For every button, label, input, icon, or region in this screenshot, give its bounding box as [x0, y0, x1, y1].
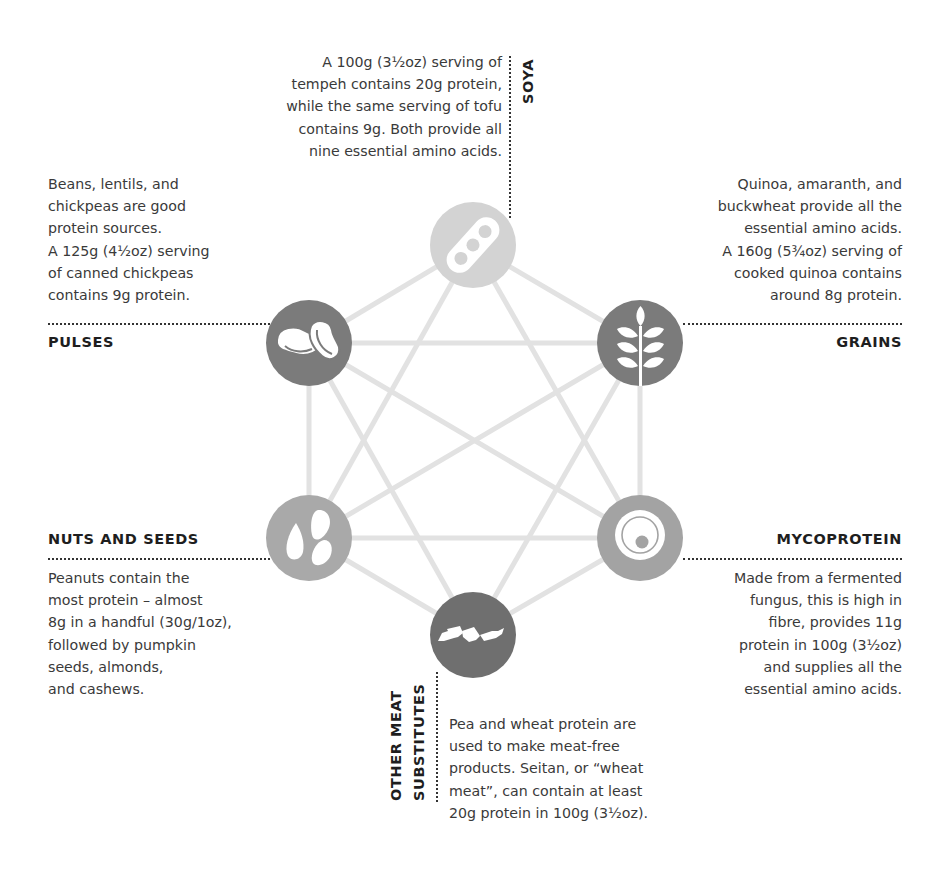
pulses-line: protein sources.	[48, 217, 288, 239]
connector-lines	[309, 245, 640, 635]
pulses-leader-line	[48, 323, 270, 325]
pulses-line: of canned chickpeas	[48, 262, 288, 284]
grains-leader-line	[683, 323, 902, 325]
grains-line: Quinoa, amaranth, and	[660, 173, 902, 195]
mycoprotein-line: and supplies all the	[660, 656, 902, 678]
nuts-and-seeds-line: seeds, almonds,	[48, 656, 288, 678]
soya-node	[430, 202, 516, 288]
other-meat-substitutes-node	[430, 592, 516, 678]
mycoprotein-line: Made from a fermented	[660, 567, 902, 589]
mycoprotein-line: essential amino acids.	[660, 678, 902, 700]
other-meat-substitutes-line: meat”, can contain at least	[449, 780, 739, 802]
pulses-line: A 125g (4½oz) serving	[48, 240, 288, 262]
mycoprotein-heading: MYCOPROTEIN	[700, 531, 902, 547]
other-meat-substitutes-leader-line	[436, 672, 438, 802]
fungus-cell-icon	[615, 510, 665, 560]
grains-heading: GRAINS	[700, 334, 902, 350]
soya-line: while the same serving of tofu	[230, 95, 502, 117]
soya-heading: SOYA	[520, 59, 536, 104]
pulses-line: chickpeas are good	[48, 195, 288, 217]
nuts-and-seeds-line: Peanuts contain the	[48, 567, 288, 589]
nuts-and-seeds-heading: NUTS AND SEEDS	[48, 531, 199, 547]
grains-node	[597, 300, 683, 386]
pulses-node	[266, 300, 352, 386]
mycoprotein-description: Made from a fermented fungus, this is hi…	[660, 567, 902, 700]
nuts-and-seeds-leader-line	[48, 558, 270, 560]
mycoprotein-line: fibre, provides 11g	[660, 611, 902, 633]
soya-line: contains 9g. Both provide all	[230, 118, 502, 140]
other-meat-substitutes-heading-line1: OTHER MEAT	[388, 690, 404, 801]
mycoprotein-line: fungus, this is high in	[660, 589, 902, 611]
soya-line: nine essential amino acids.	[230, 140, 502, 162]
grains-line: cooked quinoa contains	[660, 262, 902, 284]
nuts-and-seeds-line: 8g in a handful (30g/1oz),	[48, 611, 288, 633]
other-meat-substitutes-line: used to make meat-free	[449, 735, 739, 757]
nuts-and-seeds-line: and cashews.	[48, 678, 288, 700]
other-meat-substitutes-heading-line2: SUBSTITUTES	[411, 683, 427, 801]
mycoprotein-leader-line	[683, 558, 902, 560]
nuts-and-seeds-line: followed by pumpkin	[48, 634, 288, 656]
grains-line: A 160g (5¾oz) serving of	[660, 240, 902, 262]
grains-line: buckwheat provide all the	[660, 195, 902, 217]
other-meat-substitutes-line: Pea and wheat protein are	[449, 713, 739, 735]
mycoprotein-line: protein in 100g (3½oz)	[660, 634, 902, 656]
grains-line: essential amino acids.	[660, 217, 902, 239]
other-meat-substitutes-line: 20g protein in 100g (3½oz).	[449, 802, 739, 824]
pulses-line: contains 9g protein.	[48, 284, 288, 306]
nuts-and-seeds-description: Peanuts contain the most protein – almos…	[48, 567, 288, 700]
grains-line: around 8g protein.	[660, 284, 902, 306]
soya-line: tempeh contains 20g protein,	[230, 73, 502, 95]
pulses-line: Beans, lentils, and	[48, 173, 288, 195]
other-meat-substitutes-line: products. Seitan, or “wheat	[449, 757, 739, 779]
pulses-heading: PULSES	[48, 334, 114, 350]
nuts-and-seeds-line: most protein – almost	[48, 589, 288, 611]
soya-description: A 100g (3½oz) serving of tempeh contains…	[230, 51, 502, 162]
grains-description: Quinoa, amaranth, and buckwheat provide …	[660, 173, 902, 306]
other-meat-substitutes-description: Pea and wheat protein are used to make m…	[449, 713, 739, 824]
pulses-description: Beans, lentils, and chickpeas are good p…	[48, 173, 288, 306]
soya-leader-line	[509, 56, 511, 218]
soya-line: A 100g (3½oz) serving of	[230, 51, 502, 73]
